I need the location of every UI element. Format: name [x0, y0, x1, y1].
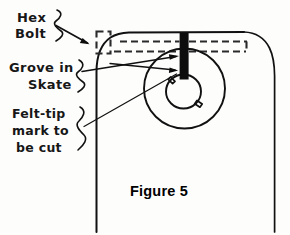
hex-bolt-rect	[97, 32, 111, 54]
hex-bolt-leader	[56, 26, 90, 45]
groove-line2: Skate	[28, 77, 72, 92]
bolt-bar	[180, 33, 189, 80]
hex-bolt-line1: Hex	[17, 10, 46, 25]
annotation-groove-in-skate: Grove in Skate	[9, 60, 85, 92]
annotation-felt-tip: Felt-tip mark to be cut	[12, 106, 86, 155]
hub-nub-right	[195, 101, 203, 108]
annotation-hex-bolt: Hex Bolt	[15, 10, 63, 41]
hex-bolt-line2: Bolt	[15, 26, 46, 41]
figure-caption: Figure 5	[130, 183, 188, 199]
felt-tip-leader	[84, 74, 177, 127]
figure-illustration: Hex Bolt Grove in Skate Felt-tip mark to…	[0, 0, 290, 235]
felt-tip-line3: be cut	[16, 140, 62, 155]
figure-drawing-canvas: Hex Bolt Grove in Skate Felt-tip mark to…	[0, 0, 290, 235]
groove-line1: Grove in	[9, 60, 74, 75]
felt-tip-line2: mark to	[12, 123, 69, 138]
felt-tip-line1: Felt-tip	[12, 106, 66, 121]
